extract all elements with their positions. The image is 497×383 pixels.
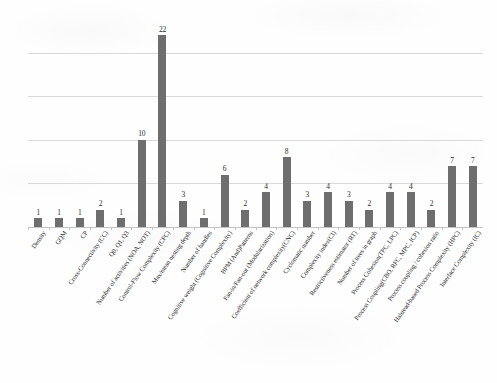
bar-value-label: 22: [159, 26, 166, 34]
bar-rect: [469, 166, 477, 227]
bar-item: 4: [256, 18, 277, 227]
bar-value-label: 2: [243, 200, 247, 208]
bar-item: 2: [235, 18, 256, 227]
bar-value-label: 1: [119, 209, 123, 217]
bar-rect: [262, 192, 270, 227]
bar-value-label: 7: [450, 157, 454, 165]
bar-value-label: 2: [368, 200, 372, 208]
bar-value-label: 6: [223, 165, 227, 173]
bar-item: 7: [462, 18, 483, 227]
bar-rect: [76, 218, 84, 227]
bar-value-label: 1: [78, 209, 82, 217]
bar-value-label: 4: [326, 183, 330, 191]
bar-value-label: 10: [138, 130, 145, 138]
bar-value-label: 3: [347, 191, 351, 199]
bar-rect: [407, 192, 415, 227]
bar-rect: [179, 201, 187, 227]
bar-rect: [427, 210, 435, 227]
bar-value-label: 8: [285, 148, 289, 156]
bar-item: 7: [442, 18, 463, 227]
bar-item: 10: [131, 18, 152, 227]
bar-rect: [55, 218, 63, 227]
x-axis-label: Interface Complexity (IC): [439, 230, 482, 288]
bar-value-label: 7: [471, 157, 475, 165]
bar-value-label: 2: [99, 200, 103, 208]
bar-value-label: 2: [430, 200, 434, 208]
x-axis-label: CP: [79, 230, 89, 240]
bar-rect: [158, 35, 166, 227]
bar-rect: [324, 192, 332, 227]
bar-value-label: 4: [388, 183, 392, 191]
bar-value-label: 4: [409, 183, 413, 191]
x-axis-labels: DensityGQMCPCross-Connectivity (CC)Q0, Q…: [28, 230, 483, 380]
bar-item: 1: [111, 18, 132, 227]
bar-item: 2: [90, 18, 111, 227]
bar-item: 22: [152, 18, 173, 227]
chart-page: 111211022316248343244277 DensityGQMCPCro…: [0, 0, 497, 383]
bar-rect: [241, 210, 249, 227]
bar-item: 1: [194, 18, 215, 227]
bar-item: 1: [28, 18, 49, 227]
bar-value-label: 1: [202, 209, 206, 217]
bar-item: 4: [380, 18, 401, 227]
bar-rect: [96, 210, 104, 227]
bar-rect: [221, 175, 229, 227]
bar-item: 2: [359, 18, 380, 227]
bar-rect: [34, 218, 42, 227]
bar-value-label: 3: [306, 191, 310, 199]
bar-rect: [138, 140, 146, 227]
bar-value-label: 3: [181, 191, 185, 199]
plot-area: 111211022316248343244277: [28, 18, 483, 228]
bar-item: 4: [400, 18, 421, 227]
bar-value-label: 4: [264, 183, 268, 191]
bar-item: 2: [421, 18, 442, 227]
bar-item: 8: [276, 18, 297, 227]
bar-rect: [448, 166, 456, 227]
bar-rect: [365, 210, 373, 227]
bar-value-label: 1: [57, 209, 61, 217]
bar-item: 3: [338, 18, 359, 227]
x-axis-label: Cross-Connectivity (CC): [68, 230, 110, 286]
x-axis-label: GQM: [54, 230, 68, 246]
bar-rect: [283, 157, 291, 227]
bar-item: 6: [214, 18, 235, 227]
bar-item: 1: [69, 18, 90, 227]
bar-item: 4: [318, 18, 339, 227]
bar-item: 3: [173, 18, 194, 227]
bar-rect: [117, 218, 125, 227]
bar-item: 3: [297, 18, 318, 227]
bar-rect: [200, 218, 208, 227]
bar-rect: [386, 192, 394, 227]
x-axis-label: Density: [31, 230, 48, 250]
bar-rect: [345, 201, 353, 227]
bar-item: 1: [49, 18, 70, 227]
bar-series: 111211022316248343244277: [28, 18, 483, 227]
bar-value-label: 1: [37, 209, 41, 217]
bar-rect: [303, 201, 311, 227]
